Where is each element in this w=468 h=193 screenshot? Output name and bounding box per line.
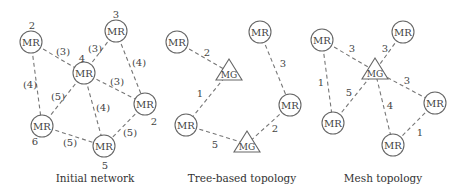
- node-label: MR: [136, 99, 154, 110]
- edge-weight-label: (4): [23, 79, 37, 90]
- node-label: MG: [239, 142, 255, 152]
- mesh-gateway-node: MG: [362, 58, 388, 79]
- edge-weight-label: 2: [204, 47, 210, 58]
- node-label: MR: [394, 27, 412, 38]
- edge-weight-label: 2: [272, 123, 278, 134]
- node-degree-label: 2: [29, 20, 35, 31]
- edge-weight-label: 3: [404, 75, 410, 86]
- edge-weight-label: (3): [88, 43, 102, 54]
- node-label: MR: [426, 98, 444, 109]
- edge-weight-label: (5): [123, 127, 137, 138]
- nodes-layer: MRMRMRMRMRMRMRMGMRMRMRMGMRMRMGMRMRMR: [20, 20, 446, 157]
- node-label: MG: [367, 69, 383, 79]
- node-degree-label: 3: [113, 9, 119, 20]
- mesh-router-node: MR: [93, 135, 115, 157]
- edge-weight-label: 3: [280, 58, 286, 69]
- node-degree-label: 6: [32, 136, 38, 147]
- mesh-router-node: MR: [424, 92, 446, 114]
- mesh-router-node: MR: [175, 114, 197, 136]
- edge-weight-label: 1: [197, 88, 203, 99]
- node-label: MG: [221, 70, 237, 80]
- edge-weight-label: 3: [382, 43, 388, 54]
- network-topology-diagram: MRMRMRMRMRMRMRMGMRMRMRMGMRMRMGMRMRMR (3)…: [0, 0, 468, 193]
- panel-caption-tree: Tree-based topology: [188, 172, 297, 184]
- mesh-router-node: MR: [73, 62, 95, 84]
- mesh-router-node: MR: [249, 21, 271, 43]
- edge-weight-label: (3): [56, 46, 70, 57]
- mesh-router-node: MR: [134, 93, 156, 115]
- edge-weight-label: (4): [132, 57, 146, 68]
- node-label: MR: [177, 120, 195, 131]
- node-label: MR: [313, 35, 331, 46]
- edge-weight-label: (5): [51, 91, 65, 102]
- mesh-router-node: MR: [31, 115, 53, 137]
- edge-weight-label: 5: [212, 139, 218, 150]
- node-degree-label: 4: [79, 53, 85, 64]
- node-label: MR: [324, 118, 342, 129]
- panel-caption-mesh: Mesh topology: [344, 172, 422, 184]
- edge-weight-label: 4: [387, 100, 393, 111]
- mesh-router-node: MR: [382, 134, 404, 156]
- labels-layer: (3)(3)(4)(3)(4)(5)(4)(5)(5)234265Initial…: [23, 9, 423, 185]
- mesh-router-node: MR: [392, 21, 414, 43]
- edge-weight-label: (4): [96, 102, 110, 113]
- node-label: MR: [281, 100, 299, 111]
- mesh-gateway-node: MG: [216, 59, 242, 80]
- node-degree-label: 2: [151, 116, 157, 127]
- edge-weight-label: (3): [110, 76, 124, 87]
- node-label: MR: [95, 141, 113, 152]
- mesh-router-node: MR: [20, 31, 42, 53]
- mesh-router-node: MR: [311, 29, 333, 51]
- mesh-router-node: MR: [322, 112, 344, 134]
- node-label: MR: [22, 37, 40, 48]
- edge-weight-label: 5: [346, 87, 352, 98]
- node-label: MR: [168, 37, 186, 48]
- node-degree-label: 5: [102, 160, 108, 171]
- node-label: MR: [75, 68, 93, 79]
- node-label: MR: [107, 26, 125, 37]
- edge-weight-label: 1: [417, 127, 423, 138]
- mesh-router-node: MR: [105, 20, 127, 42]
- node-label: MR: [33, 121, 51, 132]
- panel-caption-initial: Initial network: [56, 172, 135, 184]
- edge-weight-label: 1: [318, 77, 324, 88]
- node-label: MR: [251, 27, 269, 38]
- mesh-router-node: MR: [279, 94, 301, 116]
- edge-weight-label: 3: [349, 43, 355, 54]
- node-label: MR: [384, 140, 402, 151]
- edge-initial-b-d: [116, 31, 145, 104]
- mesh-gateway-node: MG: [234, 131, 260, 152]
- edge-tree-b-c: [260, 32, 290, 105]
- mesh-router-node: MR: [166, 31, 188, 53]
- edge-weight-label: (5): [63, 137, 77, 148]
